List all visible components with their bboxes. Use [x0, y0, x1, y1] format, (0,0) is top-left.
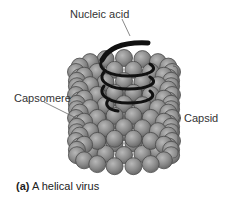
capsomere-label: Capsomere [14, 92, 71, 104]
nucleic-acid-label: Nucleic acid [70, 8, 129, 20]
figure-caption: (a) A helical virus [16, 180, 99, 192]
capsomere-cylinder [68, 50, 181, 175]
capsid-label: Capsid [184, 112, 218, 124]
nucleic-acid-leader [122, 19, 130, 36]
caption-text: A helical virus [29, 180, 99, 192]
caption-part: (a) [16, 180, 29, 192]
